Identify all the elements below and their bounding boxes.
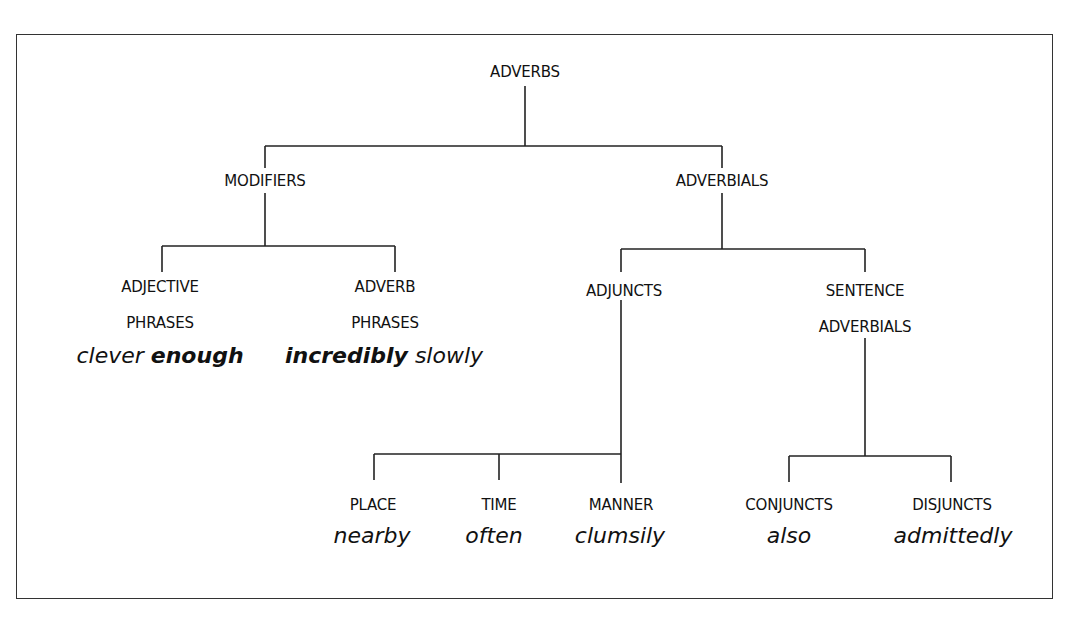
node-sentence-adverbials-line1: SENTENCE <box>826 282 904 300</box>
node-adjuncts: ADJUNCTS <box>586 282 662 300</box>
node-sentence-adverbials-line2: ADVERBIALS <box>819 318 912 336</box>
example-often: often <box>465 523 522 549</box>
example-clumsily: clumsily <box>575 523 665 549</box>
node-time: TIME <box>481 496 516 514</box>
example-bold: enough <box>151 343 244 368</box>
node-adverb-phrases-line2: PHRASES <box>351 314 419 332</box>
example-clever-enough: clever enough <box>76 343 243 369</box>
example-plain: clever <box>76 343 143 368</box>
node-manner: MANNER <box>589 496 653 514</box>
node-adverbials: ADVERBIALS <box>676 172 769 190</box>
node-modifiers: MODIFIERS <box>224 172 305 190</box>
example-also: also <box>767 523 812 549</box>
example-bold: incredibly <box>285 343 408 368</box>
node-adjective-phrases-line1: ADJECTIVE <box>121 278 199 296</box>
example-plain: slowly <box>415 343 483 368</box>
node-adjective-phrases-line2: PHRASES <box>126 314 194 332</box>
node-adverb-phrases-line1: ADVERB <box>355 278 416 296</box>
example-incredibly-slowly: incredibly slowly <box>285 343 483 369</box>
node-disjuncts: DISJUNCTS <box>912 496 991 514</box>
example-nearby: nearby <box>334 523 411 549</box>
node-place: PLACE <box>350 496 397 514</box>
example-admittedly: admittedly <box>894 523 1013 549</box>
node-adverbs: ADVERBS <box>490 63 560 81</box>
node-conjuncts: CONJUNCTS <box>745 496 832 514</box>
